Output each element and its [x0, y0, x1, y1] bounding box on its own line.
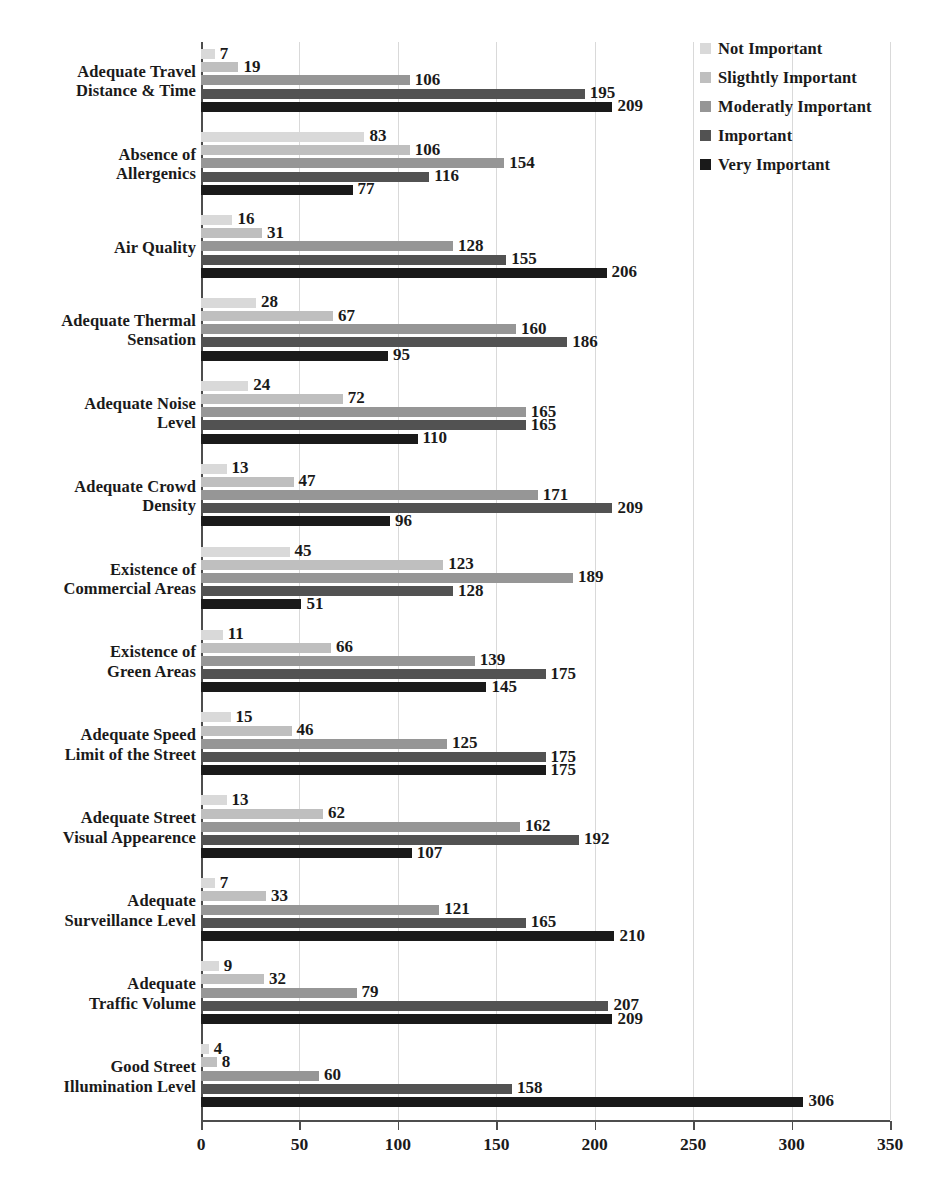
bar-group: 93279207209: [201, 954, 890, 1037]
bar-value-label: 60: [324, 1066, 341, 1083]
bar[interactable]: [201, 891, 266, 901]
bar-row: 125: [201, 739, 478, 749]
bar[interactable]: [201, 752, 546, 762]
category-label-line: Adequate Crowd: [11, 477, 196, 496]
bar[interactable]: [201, 739, 447, 749]
bar[interactable]: [201, 228, 262, 238]
bar[interactable]: [201, 381, 248, 391]
bar-value-label: 160: [521, 320, 547, 337]
bar-row: 11: [201, 630, 244, 640]
bar[interactable]: [201, 835, 579, 845]
tick-mark: [693, 1121, 695, 1130]
bar[interactable]: [201, 822, 520, 832]
bar[interactable]: [201, 420, 526, 430]
bar-value-label: 46: [297, 721, 314, 738]
legend-swatch-icon: [700, 72, 711, 83]
bar-group: 1631128155206: [201, 208, 890, 291]
bar-row: 46: [201, 726, 314, 736]
x-tick-label: 300: [778, 1134, 804, 1155]
legend-item[interactable]: Moderatly Important: [700, 92, 930, 121]
bar[interactable]: [201, 311, 333, 321]
bar[interactable]: [201, 145, 410, 155]
bar-value-label: 66: [336, 638, 353, 655]
bar-value-label: 9: [224, 957, 233, 974]
bar-row: 210: [201, 931, 645, 941]
bar-row: 158: [201, 1084, 543, 1094]
bar[interactable]: [201, 586, 453, 596]
bar-row: 106: [201, 145, 440, 155]
bar[interactable]: [201, 918, 526, 928]
category-label-line: Illumination Level: [11, 1077, 196, 1096]
bar[interactable]: [201, 988, 357, 998]
legend-item[interactable]: Not Important: [700, 34, 930, 63]
bar[interactable]: [201, 599, 301, 609]
bar[interactable]: [201, 1044, 209, 1054]
bar[interactable]: [201, 185, 353, 195]
bar[interactable]: [201, 255, 506, 265]
bar[interactable]: [201, 795, 227, 805]
legend-swatch-icon: [700, 43, 711, 54]
bar[interactable]: [201, 337, 567, 347]
legend-item[interactable]: Sligthtly Important: [700, 63, 930, 92]
bar[interactable]: [201, 809, 323, 819]
bar-row: 171: [201, 490, 568, 500]
bar[interactable]: [201, 351, 388, 361]
bar[interactable]: [201, 464, 227, 474]
bar[interactable]: [201, 848, 412, 858]
bar[interactable]: [201, 726, 292, 736]
x-tick-label: 250: [680, 1134, 706, 1155]
bar-value-label: 107: [417, 844, 443, 861]
bar[interactable]: [201, 516, 390, 526]
bar[interactable]: [201, 560, 443, 570]
bar[interactable]: [201, 62, 238, 72]
bar[interactable]: [201, 1084, 512, 1094]
bar[interactable]: [201, 75, 410, 85]
bar-row: 24: [201, 381, 270, 391]
bar[interactable]: [201, 172, 429, 182]
bar[interactable]: [201, 477, 294, 487]
bar[interactable]: [201, 49, 215, 59]
bar[interactable]: [201, 931, 614, 941]
bar[interactable]: [201, 656, 475, 666]
bar-row: 128: [201, 241, 483, 251]
bar[interactable]: [201, 682, 486, 692]
bar[interactable]: [201, 974, 264, 984]
bar[interactable]: [201, 643, 331, 653]
bar[interactable]: [201, 961, 219, 971]
bar[interactable]: [201, 878, 215, 888]
bar[interactable]: [201, 1071, 319, 1081]
bar[interactable]: [201, 547, 290, 557]
bar[interactable]: [201, 490, 538, 500]
legend-item[interactable]: Important: [700, 121, 930, 150]
category-label: AdequateTraffic Volume: [11, 974, 196, 1013]
bar-row: 45: [201, 547, 312, 557]
bar[interactable]: [201, 407, 526, 417]
bar[interactable]: [201, 298, 256, 308]
bar[interactable]: [201, 102, 612, 112]
bar-row: 139: [201, 656, 505, 666]
bar[interactable]: [201, 241, 453, 251]
bar[interactable]: [201, 1014, 612, 1024]
bar[interactable]: [201, 324, 516, 334]
bar-group: 1166139175145: [201, 622, 890, 705]
bar-row: 33: [201, 891, 288, 901]
bar[interactable]: [201, 394, 343, 404]
bar[interactable]: [201, 573, 573, 583]
bar[interactable]: [201, 89, 585, 99]
bar[interactable]: [201, 1057, 217, 1067]
category-label-line: Adequate Street: [11, 808, 196, 827]
bar[interactable]: [201, 765, 546, 775]
bar[interactable]: [201, 905, 439, 915]
bar[interactable]: [201, 1097, 803, 1107]
bar-value-label: 51: [306, 595, 323, 612]
category-label: AdequateSurveillance Level: [11, 891, 196, 930]
bar[interactable]: [201, 712, 231, 722]
bar[interactable]: [201, 215, 232, 225]
bar-row: 154: [201, 158, 535, 168]
bar[interactable]: [201, 268, 607, 278]
bar[interactable]: [201, 1001, 608, 1011]
bar[interactable]: [201, 630, 223, 640]
legend-item[interactable]: Very Important: [700, 150, 930, 179]
bar[interactable]: [201, 132, 364, 142]
bar[interactable]: [201, 434, 418, 444]
